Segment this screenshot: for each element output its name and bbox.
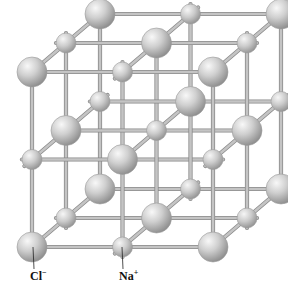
- sodium-charge: +: [134, 268, 139, 277]
- chloride-symbol: Cl: [30, 269, 42, 283]
- chloride-ion-sphere: [142, 28, 172, 58]
- chloride-ion-sphere: [198, 57, 228, 87]
- sodium-ion-sphere: [90, 92, 110, 112]
- chloride-ion-sphere: [51, 116, 81, 146]
- chloride-ion-sphere: [198, 232, 228, 262]
- sodium-ion-sphere: [237, 33, 257, 53]
- chloride-ion-sphere: [17, 57, 47, 87]
- chloride-ion-sphere: [85, 174, 115, 204]
- sodium-ion-sphere: [237, 208, 257, 228]
- chloride-ion-label: Cl−: [30, 270, 47, 282]
- chloride-ion-sphere: [108, 145, 138, 175]
- nacl-lattice-diagram: [0, 0, 288, 292]
- chloride-ion-sphere: [176, 87, 206, 117]
- chloride-charge: −: [42, 268, 47, 277]
- sodium-symbol: Na: [119, 269, 134, 283]
- sodium-ion-sphere: [22, 150, 42, 170]
- sodium-ion-sphere: [56, 208, 76, 228]
- sodium-ion-sphere: [203, 150, 223, 170]
- lattice-ions: [17, 0, 288, 262]
- chloride-ion-sphere: [17, 232, 47, 262]
- sodium-ion-sphere: [147, 121, 167, 141]
- sodium-ion-sphere: [181, 4, 201, 24]
- sodium-ion-sphere: [113, 62, 133, 82]
- chloride-ion-sphere: [85, 0, 115, 29]
- chloride-ion-sphere: [232, 116, 262, 146]
- sodium-ion-sphere: [181, 179, 201, 199]
- sodium-ion-label: Na+: [119, 270, 138, 282]
- sodium-ion-sphere: [56, 33, 76, 53]
- sodium-ion-sphere: [271, 92, 288, 112]
- chloride-ion-sphere: [142, 203, 172, 233]
